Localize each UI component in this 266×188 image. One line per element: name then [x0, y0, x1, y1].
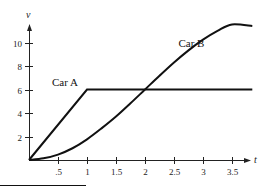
- annotation-car-a: Car A: [52, 76, 78, 88]
- annotation-car-b: Car B: [178, 37, 204, 49]
- series: [29, 24, 252, 160]
- y-tick-label: 2: [18, 133, 23, 143]
- series-line-car-a: [29, 90, 252, 161]
- x-tick-label: 1.5: [111, 167, 123, 177]
- x-tick-label: .5: [55, 167, 62, 177]
- y-tick-label: 4: [18, 109, 23, 119]
- annotations: Car ACar B: [52, 37, 204, 88]
- x-tick-label: 3.5: [227, 167, 239, 177]
- y-tick-label: 8: [18, 62, 23, 72]
- x-tick-label: 2: [143, 167, 148, 177]
- x-tick-label: 1: [85, 167, 90, 177]
- x-tick-label: 3: [201, 167, 206, 177]
- x-axis-arrow-icon: [244, 158, 251, 163]
- x-axis-label: t: [254, 154, 257, 165]
- y-tick-label: 10: [13, 39, 23, 49]
- series-line-car-b: [29, 24, 252, 160]
- y-axis-arrow-icon: [27, 24, 32, 31]
- y-tick-label: 6: [18, 86, 23, 96]
- y-axis-label: v: [26, 9, 31, 20]
- x-tick-label: 2.5: [169, 167, 181, 177]
- velocity-time-chart: t v .511.522.533.5246810 Car ACar B: [0, 0, 266, 188]
